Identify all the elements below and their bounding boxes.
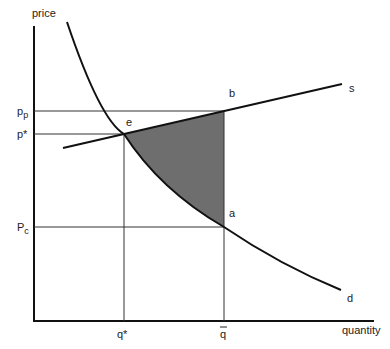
supply-label: s <box>349 82 355 94</box>
pstar-label: p* <box>17 128 28 140</box>
x-axis-label: quantity <box>342 324 381 336</box>
qstar-label: q* <box>117 328 128 340</box>
point-a-label: a <box>229 207 236 219</box>
point-e-label: e <box>126 116 132 128</box>
pp-label: pp <box>17 105 28 120</box>
shaded-area <box>124 111 224 227</box>
demand-label: d <box>347 292 353 304</box>
qbar-label: q <box>220 328 226 340</box>
pc-label: Pc <box>17 221 29 236</box>
y-axis-label: price <box>32 7 56 19</box>
point-b-label: b <box>229 87 235 99</box>
supply-demand-diagram: price quantity pp p* Pc q* q e b a s d <box>0 0 390 349</box>
